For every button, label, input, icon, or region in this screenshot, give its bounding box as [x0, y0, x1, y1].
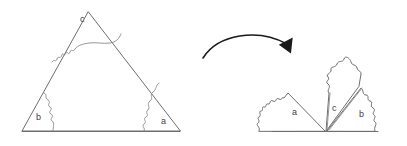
label-piece-a: a [292, 108, 297, 117]
right-assembly-group [0, 0, 407, 146]
label-piece-b: b [359, 110, 364, 119]
label-piece-c: c [332, 104, 337, 113]
geometry-diagram: c b a a c b [0, 0, 407, 146]
